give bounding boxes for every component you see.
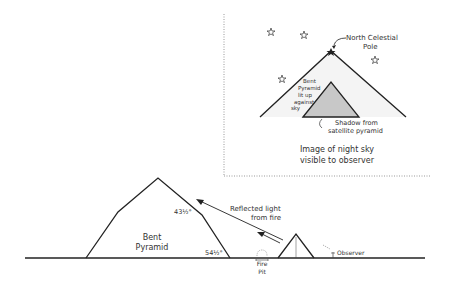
bent-lit-label: sky xyxy=(291,105,301,112)
star-icon xyxy=(278,75,286,83)
star-icon xyxy=(267,28,275,36)
star-icon xyxy=(300,31,308,39)
reflected-light-label: Reflected light xyxy=(230,205,281,213)
star-icon xyxy=(371,56,379,64)
bent-pyramid-label: Pyramid xyxy=(136,243,169,252)
bent-lit-label: Pyramid xyxy=(298,85,321,92)
observer-icon xyxy=(323,245,335,258)
bent-lit-label: lit up xyxy=(298,92,312,99)
fire-pit-label: Fire xyxy=(257,260,268,267)
bent-pyramid-label: Bent xyxy=(143,233,162,242)
shadow-label: Shadow from xyxy=(335,119,378,127)
observer-label: Observer xyxy=(337,249,365,256)
inset-caption: Image of night sky xyxy=(300,145,374,154)
upper-angle-label: 43½° xyxy=(174,208,192,216)
fire-pit-label: Pit xyxy=(258,268,266,275)
lower-angle-label: 54½° xyxy=(205,249,223,257)
diagram-canvas: North Celestial Pole Bent Pyramid lit up… xyxy=(0,0,450,286)
north-pole-label: Pole xyxy=(363,43,378,51)
bent-lit-label: Bent xyxy=(303,78,317,84)
shadow-label: satellite pyramid xyxy=(328,127,383,135)
pole-pointer-arrow xyxy=(334,38,346,45)
shadow-pointer xyxy=(320,119,323,128)
reflected-light-label: from fire xyxy=(251,214,281,222)
north-pole-label: North Celestial xyxy=(346,34,398,42)
inset-caption: visible to observer xyxy=(300,156,375,165)
